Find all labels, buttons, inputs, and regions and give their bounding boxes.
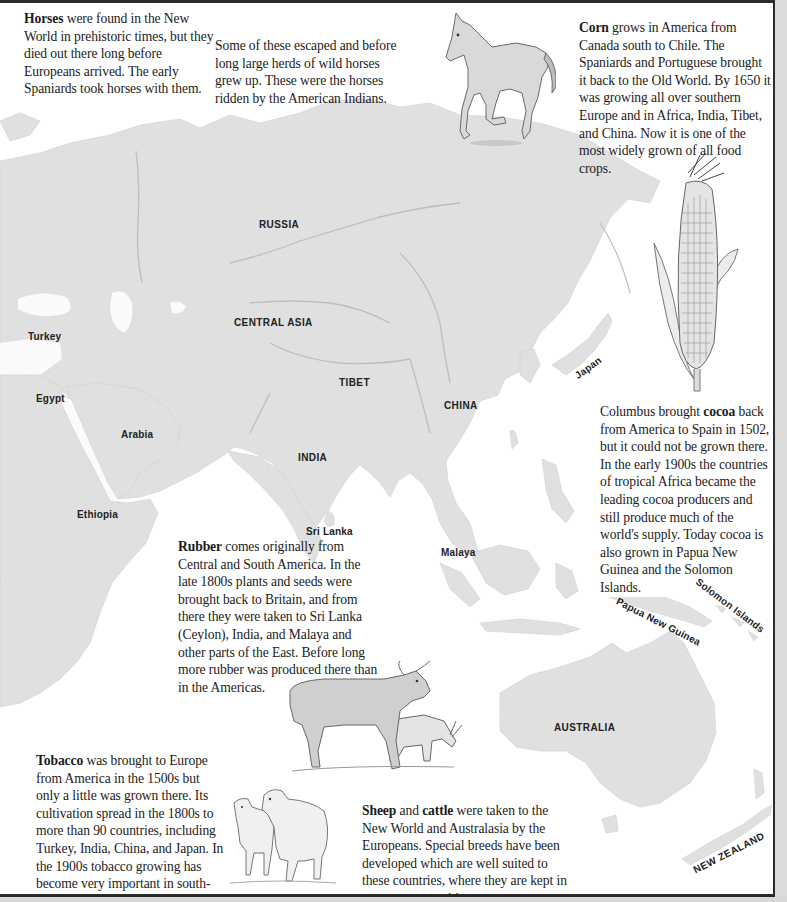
sheep-illustration — [228, 787, 340, 887]
label-tibet: TIBET — [339, 377, 370, 388]
label-malaya: Malaya — [441, 547, 476, 558]
horses-continued-paragraph: Some of these escaped and before long la… — [215, 37, 405, 107]
corn-heading: Corn — [579, 20, 609, 35]
horse-illustration — [426, 7, 556, 147]
rubber-heading: Rubber — [178, 539, 222, 554]
label-australia: AUSTRALIA — [554, 722, 615, 733]
cocoa-heading: cocoa — [703, 404, 735, 419]
label-egypt: Egypt — [36, 393, 65, 404]
sheep-heading: Sheep — [362, 803, 396, 818]
label-russia: RUSSIA — [259, 219, 299, 230]
cocoa-paragraph: Columbus brought cocoa back from America… — [600, 403, 772, 597]
label-ethiopia: Ethiopia — [77, 509, 118, 520]
label-central-asia: CENTRAL ASIA — [234, 317, 313, 328]
page-gutter — [775, 0, 787, 902]
corn-cob-illustration — [650, 153, 742, 393]
corn-paragraph: Corn grows in America from Canada south … — [579, 19, 771, 177]
cattle-heading: cattle — [422, 803, 453, 818]
map-page: Horses were found in the New World in pr… — [0, 0, 775, 897]
label-arabia: Arabia — [121, 429, 153, 440]
horses-paragraph: Horses were found in the New World in pr… — [24, 10, 219, 98]
page-bottom-edge — [0, 897, 787, 902]
label-turkey: Turkey — [28, 331, 61, 342]
label-sri-lanka: Sri Lanka — [306, 526, 353, 537]
australia-landmass — [500, 631, 716, 807]
tobacco-paragraph: Tobacco was brought to Europe from Ameri… — [36, 752, 226, 897]
tobacco-heading: Tobacco — [36, 753, 83, 768]
sheep-cattle-paragraph: Sheep and cattle were taken to the New W… — [362, 802, 574, 897]
rubber-paragraph: Rubber comes originally from Central and… — [178, 538, 378, 696]
indonesia-islands — [470, 545, 540, 595]
horses-heading: Horses — [24, 11, 63, 26]
label-china: CHINA — [444, 400, 478, 411]
label-india: INDIA — [298, 452, 327, 463]
